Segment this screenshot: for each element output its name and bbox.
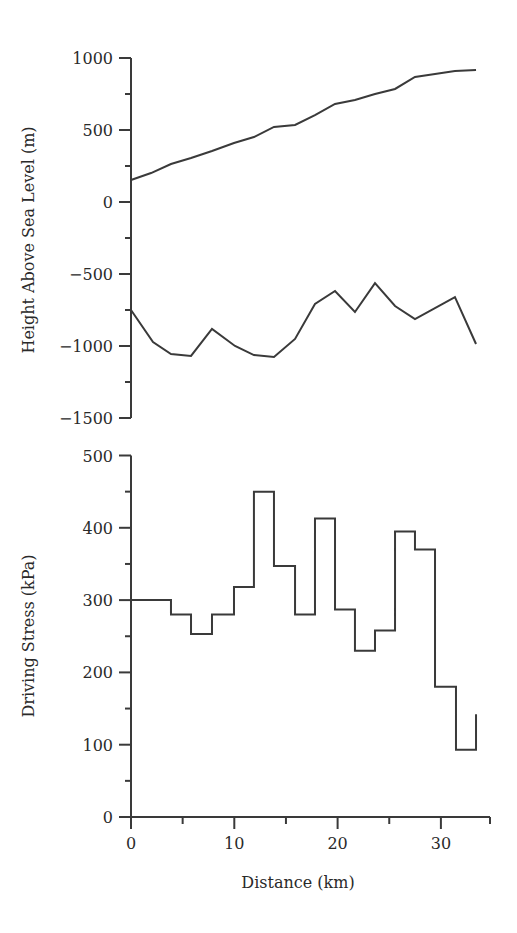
y-tick-label: −1500 bbox=[59, 409, 113, 428]
driving-stress-chart: 0100200300400500 0102030 Driving Stress … bbox=[19, 447, 490, 893]
y-tick-label: −1000 bbox=[59, 337, 113, 356]
y-tick-label: 1000 bbox=[72, 49, 113, 68]
surface-elevation-line bbox=[131, 70, 476, 180]
elevation-y-axis-label: Height Above Sea Level (m) bbox=[19, 126, 38, 353]
distance-x-axis-label: Distance (km) bbox=[241, 873, 354, 892]
x-tick-label: 30 bbox=[431, 834, 451, 853]
x-tick-label: 20 bbox=[327, 834, 347, 853]
bed-elevation-line bbox=[131, 283, 476, 357]
distance-x-axis: 0102030 bbox=[126, 817, 490, 853]
y-tick-label: 200 bbox=[82, 663, 113, 682]
driving-stress-step-line bbox=[131, 492, 476, 750]
glacier-profile-figure: 10005000−500−1000−1500 Height Above Sea … bbox=[0, 0, 517, 933]
elevation-profile-chart: 10005000−500−1000−1500 Height Above Sea … bbox=[19, 49, 476, 428]
y-tick-label: −500 bbox=[69, 265, 113, 284]
y-tick-label: 100 bbox=[82, 736, 113, 755]
elevation-y-axis: 10005000−500−1000−1500 bbox=[59, 49, 131, 428]
y-tick-label: 500 bbox=[82, 121, 113, 140]
driving-stress-y-axis: 0100200300400500 bbox=[82, 447, 131, 828]
y-tick-label: 400 bbox=[82, 519, 113, 538]
x-tick-label: 10 bbox=[224, 834, 244, 853]
x-tick-label: 0 bbox=[126, 834, 136, 853]
driving-stress-y-axis-label: Driving Stress (kPa) bbox=[19, 554, 38, 717]
y-tick-label: 300 bbox=[82, 591, 113, 610]
y-tick-label: 500 bbox=[82, 447, 113, 466]
y-tick-label: 0 bbox=[103, 193, 113, 212]
y-tick-label: 0 bbox=[103, 808, 113, 827]
